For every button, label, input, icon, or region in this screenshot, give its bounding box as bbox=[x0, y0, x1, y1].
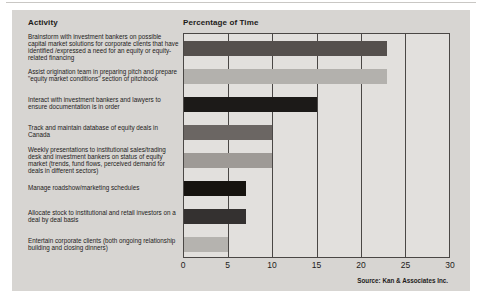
x-tick-label-30: 30 bbox=[445, 260, 454, 270]
activity-label-7: Allocate stock to institutional and reta… bbox=[28, 202, 180, 230]
x-tick-label-20: 20 bbox=[356, 260, 365, 270]
x-tick-label-15: 15 bbox=[312, 260, 321, 270]
activity-label-5: Weekly presentations to institutional sa… bbox=[28, 146, 180, 174]
activity-column-header: Activity bbox=[28, 18, 58, 27]
value-axis-header: Percentage of Time bbox=[183, 18, 258, 27]
activity-label-1: Brainstorm with investment bankers on po… bbox=[28, 33, 180, 61]
bar-slot-7 bbox=[184, 203, 449, 231]
bar-1 bbox=[184, 41, 387, 56]
bar-slot-3 bbox=[184, 90, 449, 118]
activity-label-8: Entertain corporate clients (both ongoin… bbox=[28, 230, 180, 258]
x-axis-ticks: 051015202530 bbox=[183, 260, 450, 272]
bar-slot-1 bbox=[184, 34, 449, 62]
bar-3 bbox=[184, 97, 317, 112]
activity-label-2: Assist origination team in preparing pit… bbox=[28, 61, 180, 89]
activity-label-3: Interact with investment bankers and law… bbox=[28, 89, 180, 117]
top-rule-divider bbox=[6, 2, 476, 3]
category-labels-column: Brainstorm with investment bankers on po… bbox=[28, 33, 180, 258]
plot-area bbox=[183, 33, 450, 258]
bar-slot-6 bbox=[184, 175, 449, 203]
bar-6 bbox=[184, 181, 246, 196]
x-tick-label-25: 25 bbox=[401, 260, 410, 270]
bar-7 bbox=[184, 209, 246, 224]
bar-slot-2 bbox=[184, 62, 449, 90]
activity-label-6: Manage roadshow/marketing schedules bbox=[28, 174, 180, 202]
activity-label-4: Track and maintain database of equity de… bbox=[28, 117, 180, 145]
bar-slot-5 bbox=[184, 147, 449, 175]
bar-slot-4 bbox=[184, 118, 449, 146]
chart-panel: Activity Percentage of Time Brainstorm w… bbox=[12, 10, 470, 291]
bar-slot-8 bbox=[184, 231, 449, 259]
bar-5 bbox=[184, 153, 272, 168]
bar-8 bbox=[184, 237, 228, 252]
x-tick-label-0: 0 bbox=[181, 260, 186, 270]
figure-weekly-activity-chart: Activity Percentage of Time Brainstorm w… bbox=[0, 0, 482, 296]
bar-4 bbox=[184, 125, 272, 140]
x-tick-label-10: 10 bbox=[267, 260, 276, 270]
x-tick-label-5: 5 bbox=[225, 260, 230, 270]
source-note: Source: Kan & Associates Inc. bbox=[357, 277, 448, 284]
bar-2 bbox=[184, 69, 387, 84]
